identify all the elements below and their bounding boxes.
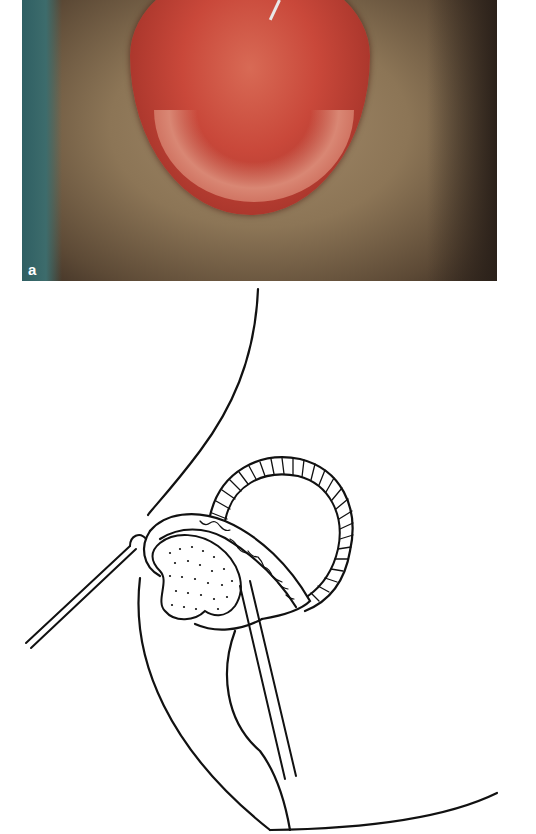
cut-band-inner [160,530,296,608]
body-contour-bottom [270,793,497,830]
surgical-drape [22,0,62,281]
core-base [195,619,262,630]
core-stipple [169,546,233,610]
left-suture [26,535,146,648]
body-contour-upper [148,289,258,515]
panel-label-a: a [28,262,36,277]
tissue-core [153,535,241,619]
forceps [240,581,296,779]
clinical-photo-panel-a: a [22,0,497,281]
loop-inner [225,474,340,596]
loop-hatching [212,458,353,601]
body-contour-lower [139,578,270,830]
photo-shadow [427,0,497,281]
schematic-drawing [0,281,536,834]
